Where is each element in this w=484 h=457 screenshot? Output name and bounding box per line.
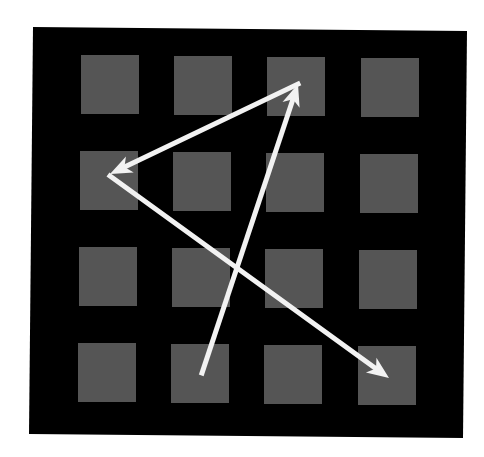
grid-square-r1-c4 [361, 58, 419, 117]
grid-arrow-diagram [0, 0, 484, 457]
grid-square-r4-c3 [264, 345, 322, 404]
grid-square-r3-c1 [79, 247, 137, 306]
diagram-canvas [0, 0, 484, 457]
grid-square-r2-c2 [173, 152, 231, 211]
grid-square-r1-c1 [81, 55, 139, 114]
grid-square-r4-c1 [78, 343, 136, 402]
grid-square-r1-c2 [174, 56, 232, 115]
grid-square-r3-c3 [265, 249, 323, 308]
grid-square-r3-c4 [359, 250, 417, 309]
grid-square-r2-c1 [80, 151, 138, 210]
grid-square-r2-c4 [360, 154, 418, 213]
